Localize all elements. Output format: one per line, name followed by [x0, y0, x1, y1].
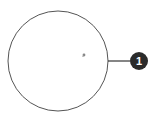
outline-circle: [8, 11, 108, 111]
diagram-canvas: 1: [0, 0, 158, 115]
callout-badge-label: 1: [136, 55, 142, 67]
callout-badge: 1: [130, 52, 148, 70]
center-mark-icon: [82, 54, 85, 57]
